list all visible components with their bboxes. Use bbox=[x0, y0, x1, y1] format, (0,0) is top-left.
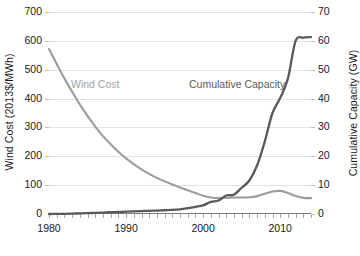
y-tick-label-left: 600 bbox=[0, 35, 42, 46]
x-minor-tick bbox=[249, 214, 250, 218]
y-axis-right-title: Cumulative Capacity (GW) bbox=[346, 8, 360, 218]
y-tick-mark-right bbox=[311, 185, 315, 186]
y-tick-label-left: 200 bbox=[0, 150, 42, 161]
y-tick-label-right: 70 bbox=[318, 6, 330, 17]
x-minor-tick bbox=[219, 214, 220, 218]
plot-area bbox=[49, 12, 311, 214]
y-tick-label-right: 0 bbox=[318, 208, 324, 219]
x-minor-tick bbox=[134, 214, 135, 218]
series-line-wind-cost bbox=[49, 49, 311, 198]
x-minor-tick bbox=[257, 214, 258, 218]
y-tick-label-left: 500 bbox=[0, 64, 42, 75]
x-minor-tick bbox=[242, 214, 243, 218]
y-tick-label-left: 400 bbox=[0, 93, 42, 104]
x-minor-tick bbox=[142, 214, 143, 218]
x-minor-tick bbox=[172, 214, 173, 218]
y-tick-label-right: 20 bbox=[318, 150, 330, 161]
x-minor-tick bbox=[296, 214, 297, 218]
x-minor-tick bbox=[180, 214, 181, 218]
x-minor-tick bbox=[273, 214, 274, 218]
y-tick-label-right: 30 bbox=[318, 121, 330, 132]
y-tick-label-right: 60 bbox=[318, 35, 330, 46]
x-minor-tick bbox=[203, 214, 204, 218]
y-tick-label-left: 0 bbox=[0, 208, 42, 219]
x-tick-label: 2010 bbox=[257, 223, 303, 234]
y-tick-mark-right bbox=[311, 127, 315, 128]
series-annotation-cumulative-capacity: Cumulative Capacity bbox=[189, 78, 285, 90]
x-minor-tick bbox=[126, 214, 127, 218]
x-tick-label: 1990 bbox=[103, 223, 149, 234]
x-minor-tick bbox=[226, 214, 227, 218]
x-minor-tick bbox=[149, 214, 150, 218]
x-minor-tick bbox=[211, 214, 212, 218]
y-tick-label-right: 10 bbox=[318, 179, 330, 190]
y-tick-mark-right bbox=[311, 41, 315, 42]
x-minor-tick bbox=[288, 214, 289, 218]
wind-cost-capacity-chart: Wind Cost (2013$/MWh) Cumulative Capacit… bbox=[0, 0, 360, 256]
y-tick-label-right: 50 bbox=[318, 64, 330, 75]
x-minor-tick bbox=[88, 214, 89, 218]
x-minor-tick bbox=[195, 214, 196, 218]
x-minor-tick bbox=[80, 214, 81, 218]
x-tick-label: 2000 bbox=[180, 223, 226, 234]
x-minor-tick bbox=[234, 214, 235, 218]
y-tick-label-right: 40 bbox=[318, 93, 330, 104]
y-tick-mark-right bbox=[311, 156, 315, 157]
series-lines bbox=[49, 12, 311, 214]
y-tick-mark-right bbox=[311, 70, 315, 71]
x-minor-tick bbox=[280, 214, 281, 218]
x-minor-tick bbox=[157, 214, 158, 218]
series-annotation-wind-cost: Wind Cost bbox=[71, 78, 119, 90]
x-minor-tick bbox=[188, 214, 189, 218]
x-minor-tick bbox=[303, 214, 304, 218]
y-tick-mark-right bbox=[311, 12, 315, 13]
x-minor-tick bbox=[118, 214, 119, 218]
y-tick-label-left: 300 bbox=[0, 121, 42, 132]
y-tick-label-left: 700 bbox=[0, 6, 42, 17]
x-minor-tick bbox=[111, 214, 112, 218]
x-minor-tick bbox=[265, 214, 266, 218]
x-tick-label: 1980 bbox=[26, 223, 72, 234]
x-minor-tick bbox=[95, 214, 96, 218]
x-minor-tick bbox=[165, 214, 166, 218]
x-minor-tick bbox=[311, 214, 312, 218]
y-tick-mark-right bbox=[311, 99, 315, 100]
x-minor-tick bbox=[103, 214, 104, 218]
y-tick-label-left: 100 bbox=[0, 179, 42, 190]
